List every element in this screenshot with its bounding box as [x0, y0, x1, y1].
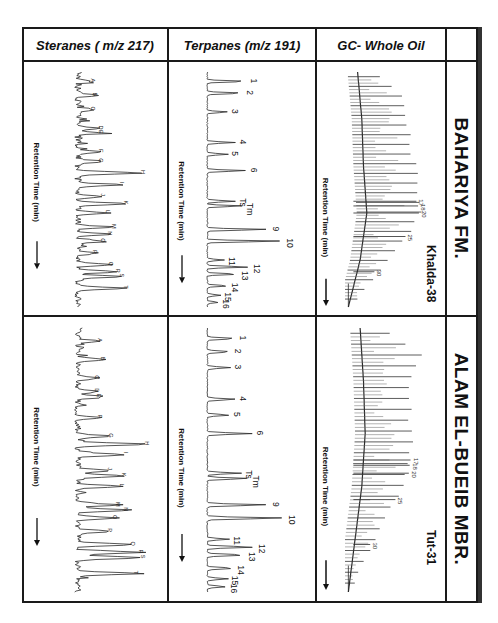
peak-label-M: M [111, 224, 117, 229]
peak-label-3: 3 [230, 109, 240, 114]
peak-label-20: 20 [411, 471, 417, 478]
panel-steranes-tut-31: ABCDEFGHIJKLMNOPQRSTRetention Time (min) [24, 317, 167, 601]
well-label: Tut-31 [424, 530, 438, 565]
chart-steranes-khalda-38: ABCDEFGHIJKLMNOPQRSTRetention Time (min) [24, 62, 167, 315]
panel-terpanes-khalda-38: 123456TsTm910111213141516Retention Time … [169, 62, 315, 317]
peak-label-L: L [105, 210, 111, 213]
peak-label-1: 1 [238, 336, 248, 341]
peak-label-C: C [94, 375, 100, 379]
peak-label-L: L [119, 483, 125, 486]
peak-label-6: 6 [249, 168, 259, 173]
peak-label-P: P [92, 250, 98, 254]
peak-label-4: 4 [238, 396, 248, 401]
peak-label-N: N [123, 507, 129, 511]
well-label: Khalda-38 [424, 245, 438, 303]
x-axis-label: Retention Time (min) [32, 143, 41, 223]
peak-label-C: C [90, 107, 96, 111]
peak-label-D: D [98, 125, 104, 129]
peak-label-B: B [100, 357, 106, 361]
peak-label-10: 10 [285, 238, 295, 248]
peak-label-16: 16 [221, 299, 231, 309]
peak-label-14: 14 [236, 565, 246, 575]
peak-label-20: 20 [421, 211, 427, 218]
row-steranes: Steranes ( m/z 217) ABCDEFGHIJKLMNOPQRST… [24, 29, 167, 601]
peak-label-2: 2 [233, 349, 243, 354]
peak-label-9: 9 [271, 502, 281, 507]
peak-label-9: 9 [271, 226, 281, 231]
peak-label-Q: Q [108, 262, 114, 267]
peak-label-S: S [140, 555, 146, 559]
retention-arrow-icon [179, 277, 185, 283]
chart-terpanes-khalda-38: 123456TsTm910111213141516Retention Time … [169, 62, 315, 315]
peak-label-4: 4 [238, 140, 248, 145]
peak-label-25: 25 [397, 498, 403, 505]
peak-label-12: 12 [252, 264, 262, 274]
peak-label-1: 1 [249, 78, 259, 83]
peak-label-5: 5 [230, 151, 240, 156]
header-corner-cell [447, 29, 476, 62]
panel-terpanes-tut-31: 123456TsTm910111213141516Retention Time … [169, 317, 315, 601]
peak-label-2: 2 [245, 90, 255, 95]
chart-terpanes-tut-31: 123456TsTm910111213141516Retention Time … [169, 317, 315, 601]
x-axis-label: Retention Time (min) [321, 178, 330, 258]
chart-steranes-tut-31: ABCDEFGHIJKLMNOPQRSTRetention Time (min) [24, 317, 167, 601]
peak-label-Tm: Tm [251, 475, 261, 487]
peak-label-G: G [108, 433, 114, 437]
peak-label-30: 30 [372, 542, 378, 549]
x-axis-label: Retention Time (min) [321, 447, 330, 527]
formation-header-alam-el-bueib: ALAM EL-BUEIB MBR. [447, 317, 476, 601]
peak-label-G: G [98, 158, 104, 162]
retention-arrow-icon [323, 584, 329, 590]
panel-gc-tut-31: Tut-311718202530Retention Time (min) [317, 317, 445, 601]
peak-label-R: R [115, 269, 121, 273]
peak-label-J: J [100, 194, 106, 197]
retention-arrow-icon [179, 556, 185, 562]
peak-label-5: 5 [232, 412, 242, 417]
peak-label-E: E [96, 394, 102, 398]
retention-arrow-icon [34, 263, 40, 269]
panel-steranes-khalda-38: ABCDEFGHIJKLMNOPQRSTRetention Time (min) [24, 62, 167, 317]
peak-label-E: E [98, 130, 104, 134]
sterane-trace [75, 328, 146, 592]
peak-label-P: P [107, 528, 113, 532]
sterane-trace [75, 72, 142, 307]
peak-label-14: 14 [230, 283, 240, 293]
peak-label-Q: Q [130, 541, 136, 546]
retention-arrow-icon [34, 540, 40, 546]
peak-label-B: B [92, 93, 98, 97]
row-label-steranes: Steranes ( m/z 217) [24, 29, 167, 62]
peak-label-Tm: Tm [245, 203, 255, 215]
peak-label-M: M [115, 502, 121, 507]
peak-label-3: 3 [233, 365, 243, 370]
peak-label-S: S [119, 273, 125, 277]
peak-label-A: A [97, 338, 103, 342]
peak-label-K: K [121, 473, 127, 477]
peak-label-O: O [112, 515, 118, 520]
peak-label-18: 18 [412, 463, 418, 470]
peak-label-13: 13 [247, 552, 257, 562]
formation-header-bahariya: BAHARIYA FM. [447, 62, 476, 317]
peak-label-30: 30 [376, 270, 382, 277]
row-label-terpanes: Terpanes (m/z 191) [169, 29, 315, 62]
peak-label-I: I [123, 452, 129, 454]
row-terpanes: Terpanes (m/z 191) 123456TsTm91011121314… [167, 29, 315, 601]
terpane-trace [207, 328, 282, 592]
peak-label-N: N [107, 231, 113, 235]
row-gc-whole-oil: GC- Whole Oil Khalda-381718202530Retenti… [315, 29, 445, 601]
retention-arrow-icon [323, 300, 329, 306]
peak-label-13: 13 [240, 271, 250, 281]
peak-label-H: H [140, 170, 146, 174]
peak-label-I: I [119, 182, 125, 184]
peak-label-J: J [107, 468, 113, 471]
peak-label-D: D [94, 388, 100, 392]
peak-label-K: K [123, 201, 129, 205]
peak-label-6: 6 [255, 431, 265, 436]
peak-label-A: A [90, 78, 96, 82]
peak-label-11: 11 [232, 536, 242, 545]
formation-header-row: BAHARIYA FM. ALAM EL-BUEIB MBR. [445, 29, 476, 601]
chromatogram-figure: BAHARIYA FM. ALAM EL-BUEIB MBR. GC- Whol… [22, 27, 478, 603]
panel-gc-khalda-38: Khalda-381718202530Retention Time (min) [317, 62, 445, 317]
row-label-gc: GC- Whole Oil [317, 29, 445, 62]
peak-label-R: R [138, 549, 144, 553]
peak-label-25: 25 [407, 235, 413, 242]
